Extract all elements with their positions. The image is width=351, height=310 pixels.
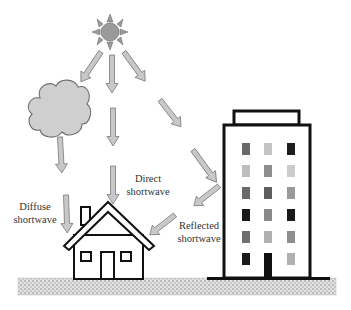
building-window xyxy=(242,209,250,221)
label-reflected-line2: shortwave xyxy=(167,232,231,245)
sun-arrow-to-cloud xyxy=(76,49,106,86)
label-direct-shortwave: Direct shortwave xyxy=(118,172,178,198)
building-window xyxy=(287,143,295,155)
label-reflected-shortwave: Reflected shortwave xyxy=(167,219,231,245)
label-diffuse-line1: Diffuse xyxy=(5,200,65,213)
arrow-hitting-building xyxy=(188,146,221,185)
label-direct-line2: shortwave xyxy=(118,185,178,198)
reflected-arrow-upper xyxy=(190,181,223,210)
building-window xyxy=(287,231,295,243)
building-window xyxy=(264,209,272,221)
cloud-arrow-upper xyxy=(54,137,68,174)
building xyxy=(207,111,330,280)
cloud-icon xyxy=(28,80,90,137)
sun-arrow-to-building-upper xyxy=(119,48,150,84)
building-window xyxy=(264,231,272,243)
building-window xyxy=(242,231,250,243)
house-door xyxy=(101,252,114,279)
building-window xyxy=(287,187,295,199)
label-diffuse-shortwave: Diffuse shortwave xyxy=(5,200,65,226)
building-window xyxy=(287,253,295,265)
building-window xyxy=(264,165,272,177)
building-window xyxy=(264,187,272,199)
label-reflected-line1: Reflected xyxy=(167,219,231,232)
building-window xyxy=(242,187,250,199)
sun-arrow-to-building-middle xyxy=(155,96,185,130)
building-window xyxy=(242,253,250,265)
sun-arrow-direct-upper xyxy=(106,55,118,93)
building-top xyxy=(234,111,299,125)
building-window xyxy=(264,143,272,155)
direct-arrow-middle xyxy=(107,108,119,146)
sun-icon xyxy=(92,14,128,50)
building-window xyxy=(242,143,250,155)
building-window xyxy=(287,165,295,177)
label-diffuse-line2: shortwave xyxy=(5,213,65,226)
building-window xyxy=(287,209,295,221)
building-door xyxy=(264,253,272,278)
house-window-right xyxy=(121,252,131,261)
shortwave-radiation-diagram: Direct shortwave Diffuse shortwave Refle… xyxy=(0,0,351,310)
house xyxy=(64,202,154,279)
building-window xyxy=(242,165,250,177)
label-direct-line1: Direct xyxy=(118,172,178,185)
ground xyxy=(18,278,336,295)
house-window-left xyxy=(81,252,91,261)
